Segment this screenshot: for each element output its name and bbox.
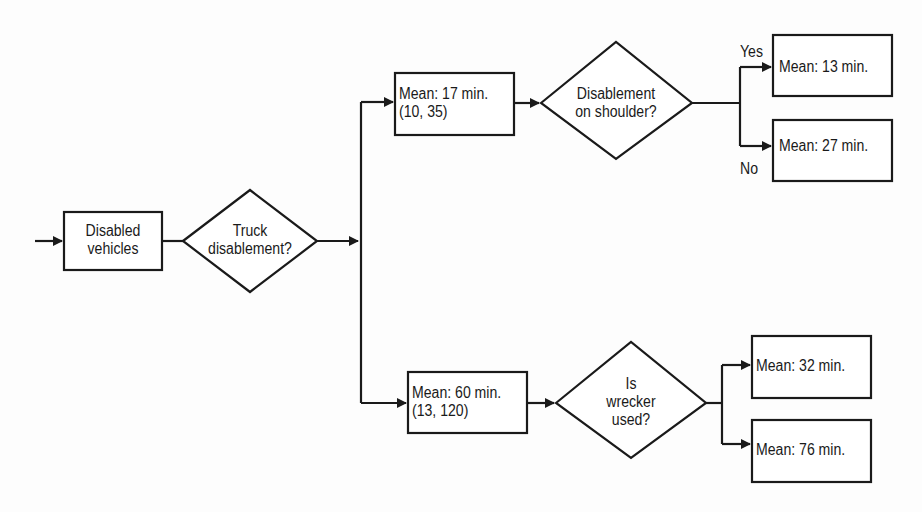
- start-node: Disabled vehicles: [70, 222, 156, 258]
- shoulder-decision-line1: Disablement: [563, 85, 669, 103]
- wrecker-decision-line2: wrecker: [591, 393, 670, 411]
- wrecker-outcome-a: Mean: 32 min.: [756, 357, 845, 375]
- wrecker-decision-line1: Is: [591, 375, 670, 393]
- shoulder-yes-outcome: Mean: 13 min.: [779, 58, 868, 76]
- truck-decision-line2: disablement?: [200, 240, 300, 258]
- lower-outcome-mean: Mean: 60 min.: [412, 384, 501, 402]
- shoulder-decision-line2: on shoulder?: [563, 103, 669, 121]
- wrecker-decision-line3: used?: [591, 411, 670, 429]
- truck-decision-line1: Truck: [200, 222, 300, 240]
- wrecker-decision: Is wrecker used?: [591, 375, 670, 429]
- shoulder-no-outcome: Mean: 27 min.: [779, 137, 868, 155]
- upper-outcome-mean: Mean: 17 min.: [399, 85, 488, 103]
- start-node-line1: Disabled: [70, 222, 156, 240]
- diagram-canvas: Disabled vehicles Truck disablement? Mea…: [0, 0, 922, 512]
- edge-label-no: No: [740, 160, 758, 178]
- edge-label-yes: Yes: [740, 43, 763, 61]
- lower-outcome-range: (13, 120): [412, 402, 501, 420]
- upper-outcome-range: (10, 35): [399, 103, 488, 121]
- shoulder-decision: Disablement on shoulder?: [563, 85, 669, 121]
- wrecker-outcome-b: Mean: 76 min.: [756, 441, 845, 459]
- truck-decision: Truck disablement?: [200, 222, 300, 258]
- upper-outcome-box: Mean: 17 min. (10, 35): [399, 85, 488, 121]
- start-node-line2: vehicles: [70, 240, 156, 258]
- lower-outcome-box: Mean: 60 min. (13, 120): [412, 384, 501, 420]
